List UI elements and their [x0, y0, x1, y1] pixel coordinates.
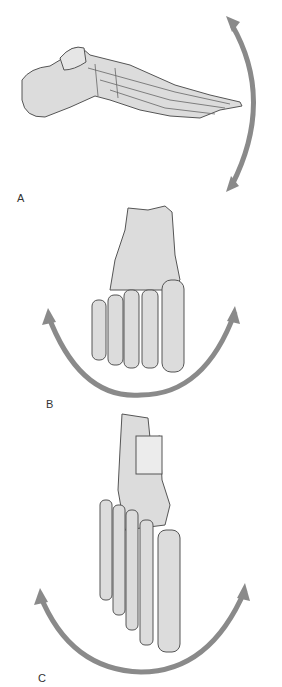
panel-a: A: [0, 0, 282, 210]
panel-label: B: [46, 398, 53, 410]
dorsal-foot-illustration: [0, 410, 282, 687]
panel-b: B: [0, 200, 282, 415]
panel-c: C: [0, 410, 282, 687]
panel-label: C: [38, 672, 46, 684]
lateral-foot-illustration: [0, 0, 282, 210]
anterior-foot-illustration: [0, 200, 282, 415]
